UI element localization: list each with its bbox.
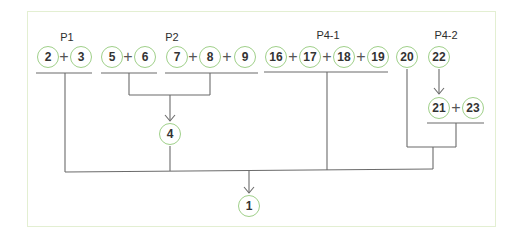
- node-2: 2: [37, 46, 59, 68]
- plus-sign: +: [288, 49, 297, 65]
- node-22: 22: [428, 46, 450, 68]
- node-4: 4: [159, 123, 181, 145]
- node-21: 21: [428, 97, 450, 119]
- node-9: 9: [234, 46, 256, 68]
- node-3: 3: [70, 46, 92, 68]
- node-6: 6: [134, 46, 156, 68]
- node-23: 23: [462, 97, 484, 119]
- node-20: 20: [396, 46, 418, 68]
- node-17: 17: [299, 46, 321, 68]
- group-label-p2: P2: [165, 31, 178, 43]
- node-8: 8: [199, 46, 221, 68]
- node-18: 18: [333, 46, 355, 68]
- plus-sign: +: [59, 49, 68, 65]
- node-16: 16: [265, 46, 287, 68]
- plus-sign: +: [222, 49, 231, 65]
- node-7: 7: [166, 46, 188, 68]
- group-label-p4-2: P4-2: [434, 29, 457, 41]
- plus-sign: +: [322, 49, 331, 65]
- group-label-p1: P1: [60, 31, 73, 43]
- node-19: 19: [367, 46, 389, 68]
- node-1: 1: [238, 195, 260, 217]
- plus-sign: +: [356, 49, 365, 65]
- plus-sign: +: [451, 100, 460, 116]
- node-5: 5: [101, 46, 123, 68]
- plus-sign: +: [188, 49, 197, 65]
- group-label-p4-1: P4-1: [316, 29, 339, 41]
- plus-sign: +: [123, 49, 132, 65]
